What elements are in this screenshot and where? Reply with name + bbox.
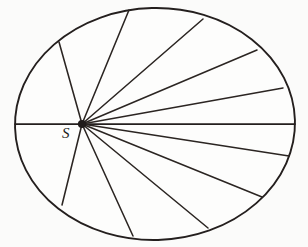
point-s-label: S <box>62 126 70 141</box>
figure-container: S <box>0 0 308 247</box>
ellipse-chord-diagram <box>0 0 308 247</box>
point-s-marker <box>78 120 86 128</box>
